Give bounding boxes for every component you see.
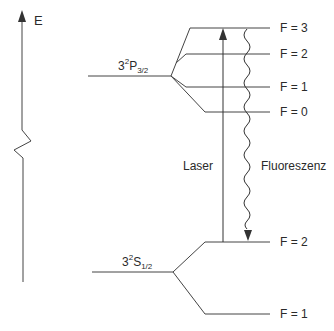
fluorescence-label: Fluoreszenz	[261, 160, 326, 172]
upper-level-f3-label: F = 3	[280, 22, 308, 34]
lower-term-levels	[92, 242, 270, 314]
upper-term-levels	[88, 28, 270, 112]
upper-term-label: 32P3/2	[118, 58, 148, 75]
lower-term-label: 32S1/2	[122, 254, 152, 271]
arrow-up-icon	[18, 10, 26, 22]
laser-transition-arrow	[219, 28, 227, 242]
upper-level-f0-label: F = 0	[280, 106, 308, 118]
fluorescence-wavy-arrow	[244, 29, 252, 241]
energy-axis	[14, 10, 31, 282]
energy-axis-label: E	[34, 14, 43, 27]
upper-level-f1-label: F = 1	[280, 81, 308, 93]
lower-level-f1-label: F = 1	[280, 308, 308, 320]
upper-level-f2-label: F = 2	[280, 48, 308, 60]
lower-level-f2-label: F = 2	[280, 236, 308, 248]
laser-label: Laser	[183, 160, 213, 172]
